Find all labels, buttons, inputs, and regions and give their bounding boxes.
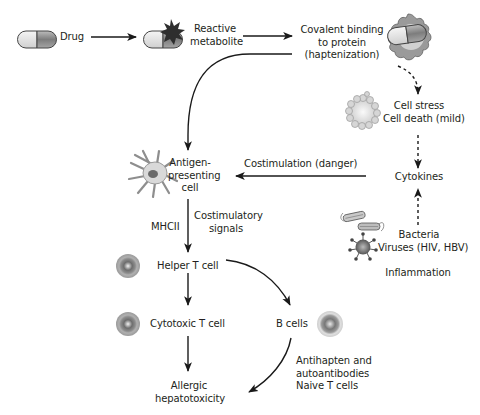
- stressed-cell-icon: [346, 92, 381, 130]
- b-cell-icon: [317, 311, 343, 337]
- diagram-canvas: Drug Reactive metabolite Covalent bindin…: [0, 0, 480, 415]
- edge-label-antibodies: Antihapten and autoantibodies Naive T ce…: [296, 355, 372, 393]
- node-cytokines: Cytokines: [392, 171, 446, 184]
- node-cytotoxic-t-cell: Cytotoxic T cell: [150, 318, 225, 331]
- edge-label-mhcii: MHCII: [151, 221, 180, 234]
- capsule-protein-complex-icon: [386, 14, 431, 60]
- node-inflammation: Inflammation: [385, 267, 451, 280]
- node-cell-stress: Cell stress Cell death (mild): [383, 100, 455, 125]
- arrow-binding-to-apc: [188, 54, 292, 150]
- t-cell-icon: [116, 254, 140, 278]
- arrow-binding-to-cell-stress: [398, 66, 418, 94]
- diagram-graphics: [0, 0, 480, 415]
- arrow-b-cells-to-hepatotoxicity: [249, 338, 291, 392]
- edge-label-costimulatory-signals: Costimulatory signals: [194, 210, 258, 235]
- node-b-cells: B cells: [276, 318, 308, 331]
- node-helper-t-cell: Helper T cell: [157, 260, 218, 273]
- t-cell-icon: [116, 312, 140, 336]
- capsule-icon: [18, 31, 57, 48]
- node-allergic-hepatotoxicity: Allergic hepatotoxicity: [155, 380, 223, 405]
- capsule-with-starburst-icon: [144, 19, 186, 48]
- node-antigen-presenting-cell: Antigen- presenting cell: [168, 157, 212, 195]
- node-covalent-binding: Covalent binding to protein (haptenizati…: [299, 24, 385, 62]
- edge-label-costimulation: Costimulation (danger): [244, 158, 356, 171]
- node-reactive-metabolite: Reactive metabolite: [190, 23, 240, 48]
- arrow-helper-t-to-b-cells: [226, 260, 290, 305]
- node-pathogens: Bacteria Viruses (HIV, HBV): [378, 229, 460, 254]
- node-drug: Drug: [60, 31, 84, 44]
